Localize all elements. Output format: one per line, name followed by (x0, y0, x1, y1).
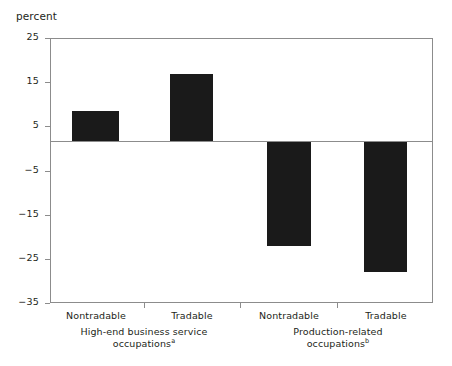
bar-production-tradable (364, 142, 407, 272)
y-tick-mark (45, 259, 50, 260)
y-tick-mark (45, 215, 50, 216)
group-label-line-2-text: occupations (307, 338, 365, 349)
y-tick-mark (45, 82, 50, 83)
group-label-line-2-text: occupations (113, 338, 171, 349)
y-axis-unit-label: percent (16, 10, 57, 22)
x-axis-tick-1 (144, 303, 145, 308)
x-axis-tick-3 (337, 303, 338, 308)
footnote-marker-a: a (171, 336, 175, 344)
group-label-line-2: occupationsa (48, 338, 240, 350)
x-label-highend-tradable: Tradable (146, 310, 238, 321)
bar-highend-tradable (170, 74, 213, 141)
group-label-line-1: Production-related (242, 326, 434, 338)
bar-chart-figure: percent 25 15 5 −5 −15 −25 −35 Nontradab… (0, 0, 452, 366)
y-tick-label: 15 (27, 75, 40, 86)
y-tick-label: 25 (27, 31, 40, 42)
y-tick-label: 5 (33, 119, 39, 130)
x-group-label-high-end-business-service: High-end business service occupationsa (48, 326, 240, 349)
y-tick-label: −35 (18, 296, 39, 307)
x-label-highend-nontradable: Nontradable (50, 310, 142, 321)
x-axis-tick-2 (240, 303, 241, 308)
group-label-line-2: occupationsb (242, 338, 434, 350)
bar-production-nontradable (267, 142, 311, 246)
x-label-production-nontradable: Nontradable (243, 310, 335, 321)
y-tick-label: −15 (18, 208, 39, 219)
bar-highend-nontradable (72, 111, 119, 141)
y-tick-label: −5 (25, 164, 39, 175)
y-tick-mark (45, 303, 50, 304)
y-tick-mark (45, 38, 50, 39)
y-tick-mark (45, 126, 50, 127)
x-group-label-production-related: Production-related occupationsb (242, 326, 434, 349)
group-label-line-1: High-end business service (48, 326, 240, 338)
footnote-marker-b: b (365, 336, 369, 344)
x-label-production-tradable: Tradable (340, 310, 432, 321)
y-tick-label: −25 (18, 252, 39, 263)
y-tick-mark (45, 171, 50, 172)
